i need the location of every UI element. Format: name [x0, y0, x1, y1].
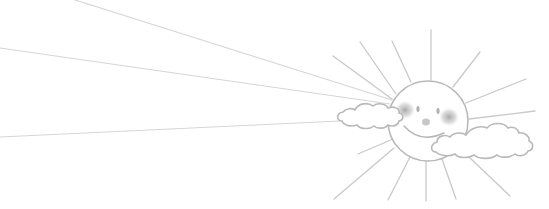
sun-ray	[0, 48, 390, 104]
right-eye	[436, 108, 439, 114]
sun-ray	[442, 159, 456, 199]
sun-ray	[388, 157, 410, 200]
long-rays	[0, 0, 392, 137]
sun-ray	[453, 52, 480, 87]
sun-ray	[334, 148, 394, 199]
left-cloud	[338, 104, 403, 129]
sun-ray	[75, 0, 392, 100]
nose	[422, 119, 430, 126]
sun-ray	[0, 121, 340, 137]
sun-ray	[358, 139, 393, 154]
right-cheek-blush	[438, 107, 460, 127]
sun-with-clouds-drawing	[0, 0, 549, 209]
sun-illustration	[0, 0, 549, 209]
sun-ray	[470, 158, 510, 196]
sun-ray	[333, 56, 392, 99]
sun-ray	[469, 111, 535, 119]
sun-ray	[360, 42, 396, 94]
sun-ray	[392, 41, 411, 82]
left-eye	[416, 106, 419, 112]
sun-ray	[466, 79, 526, 103]
